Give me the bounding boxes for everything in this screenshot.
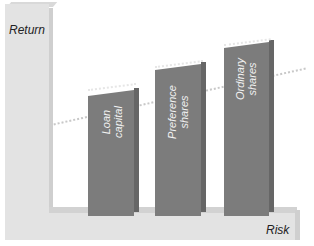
bar-label-line2: shares: [246, 51, 258, 107]
bar-label-line1: Ordinary: [234, 51, 246, 107]
y-axis-label: Return: [9, 23, 45, 37]
x-axis-block: [5, 213, 295, 240]
y-axis-block: [5, 4, 49, 240]
bar-label-line1: Loan: [100, 102, 112, 142]
bar-label-line1: Preference: [166, 82, 178, 142]
risk-return-diagram: Return Risk Loan capital Preference shar…: [0, 0, 314, 246]
x-axis-label: Risk: [266, 223, 289, 237]
bar-label-line2: capital: [112, 102, 124, 142]
x-axis-block-side: [295, 210, 300, 240]
y-axis-block-side: [49, 8, 53, 208]
bar-label-line2: shares: [178, 82, 190, 142]
